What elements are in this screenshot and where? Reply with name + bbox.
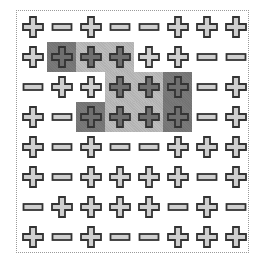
board-cell-r4-c5[interactable] — [163, 132, 192, 162]
board-cell-r4-c4[interactable] — [134, 132, 163, 162]
plus-icon — [80, 166, 102, 188]
board-cell-r6-c5[interactable] — [163, 192, 192, 222]
board-cell-r5-c7[interactable] — [221, 162, 250, 192]
plus-icon — [167, 16, 189, 38]
board-cell-r0-c3[interactable] — [105, 12, 134, 42]
board-cell-r3-c1[interactable] — [47, 102, 76, 132]
plus-icon — [225, 16, 247, 38]
board-cell-r5-c6[interactable] — [192, 162, 221, 192]
board-cell-r1-c7[interactable] — [221, 42, 250, 72]
board-cell-r5-c3[interactable] — [105, 162, 134, 192]
board-cell-r0-c1[interactable] — [47, 12, 76, 42]
board-cell-r2-c2[interactable] — [76, 72, 105, 102]
minus-icon — [167, 196, 189, 218]
board-cell-r0-c6[interactable] — [192, 12, 221, 42]
board-cell-r3-c0[interactable] — [18, 102, 47, 132]
board-cell-r7-c0[interactable] — [18, 222, 47, 252]
board-cell-r5-c2[interactable] — [76, 162, 105, 192]
board-cell-r4-c0[interactable] — [18, 132, 47, 162]
minus-icon — [109, 226, 131, 248]
minus-icon — [109, 136, 131, 158]
board-cell-r5-c0[interactable] — [18, 162, 47, 192]
board-cell-r2-c3[interactable] — [105, 72, 134, 102]
plus-icon — [225, 166, 247, 188]
minus-icon — [51, 16, 73, 38]
board-cell-r6-c2[interactable] — [76, 192, 105, 222]
board-cell-r5-c1[interactable] — [47, 162, 76, 192]
board-cell-r6-c4[interactable] — [134, 192, 163, 222]
board-cell-r1-c5[interactable] — [163, 42, 192, 72]
board-cell-r2-c7[interactable] — [221, 72, 250, 102]
plus-icon — [51, 196, 73, 218]
board-cell-r1-c4[interactable] — [134, 42, 163, 72]
plus-icon — [167, 106, 189, 128]
board-cell-r0-c2[interactable] — [76, 12, 105, 42]
minus-icon — [22, 196, 44, 218]
plus-icon — [138, 196, 160, 218]
board-cell-r7-c2[interactable] — [76, 222, 105, 252]
plus-icon — [80, 16, 102, 38]
board-cell-r3-c7[interactable] — [221, 102, 250, 132]
minus-icon — [196, 76, 218, 98]
minus-icon — [138, 136, 160, 158]
board-cell-r3-c3[interactable] — [105, 102, 134, 132]
board-cell-r2-c0[interactable] — [18, 72, 47, 102]
board-cell-r0-c7[interactable] — [221, 12, 250, 42]
minus-icon — [196, 46, 218, 68]
minus-icon — [51, 166, 73, 188]
board-cell-r4-c1[interactable] — [47, 132, 76, 162]
board-cell-r3-c6[interactable] — [192, 102, 221, 132]
board-cell-r6-c0[interactable] — [18, 192, 47, 222]
plus-icon — [138, 46, 160, 68]
board-cell-r2-c5[interactable] — [163, 72, 192, 102]
board-cell-r3-c5[interactable] — [163, 102, 192, 132]
board-cell-r7-c5[interactable] — [163, 222, 192, 252]
tile-grid — [18, 12, 250, 252]
board-cell-r2-c4[interactable] — [134, 72, 163, 102]
board-cell-r7-c3[interactable] — [105, 222, 134, 252]
board-cell-r1-c3[interactable] — [105, 42, 134, 72]
board-cell-r7-c4[interactable] — [134, 222, 163, 252]
plus-icon — [225, 136, 247, 158]
board-cell-r1-c6[interactable] — [192, 42, 221, 72]
plus-icon — [196, 16, 218, 38]
board-cell-r6-c6[interactable] — [192, 192, 221, 222]
board-cell-r5-c4[interactable] — [134, 162, 163, 192]
plus-icon — [225, 76, 247, 98]
board-cell-r4-c2[interactable] — [76, 132, 105, 162]
board-cell-r6-c7[interactable] — [221, 192, 250, 222]
minus-icon — [225, 196, 247, 218]
plus-icon — [22, 16, 44, 38]
board-cell-r1-c2[interactable] — [76, 42, 105, 72]
board-cell-r6-c1[interactable] — [47, 192, 76, 222]
plus-icon — [225, 226, 247, 248]
game-board — [16, 10, 249, 253]
board-cell-r3-c4[interactable] — [134, 102, 163, 132]
plus-icon — [196, 196, 218, 218]
plus-icon — [167, 226, 189, 248]
minus-icon — [196, 166, 218, 188]
board-cell-r0-c5[interactable] — [163, 12, 192, 42]
board-cell-r2-c6[interactable] — [192, 72, 221, 102]
plus-icon — [80, 76, 102, 98]
board-cell-r0-c0[interactable] — [18, 12, 47, 42]
minus-icon — [196, 106, 218, 128]
board-cell-r1-c0[interactable] — [18, 42, 47, 72]
board-cell-r1-c1[interactable] — [47, 42, 76, 72]
board-cell-r4-c6[interactable] — [192, 132, 221, 162]
plus-icon — [138, 76, 160, 98]
plus-icon — [22, 106, 44, 128]
board-cell-r4-c3[interactable] — [105, 132, 134, 162]
plus-icon — [109, 46, 131, 68]
board-cell-r7-c6[interactable] — [192, 222, 221, 252]
board-cell-r0-c4[interactable] — [134, 12, 163, 42]
board-cell-r4-c7[interactable] — [221, 132, 250, 162]
plus-icon — [109, 106, 131, 128]
board-cell-r2-c1[interactable] — [47, 72, 76, 102]
board-cell-r5-c5[interactable] — [163, 162, 192, 192]
board-cell-r3-c2[interactable] — [76, 102, 105, 132]
board-cell-r7-c7[interactable] — [221, 222, 250, 252]
board-cell-r7-c1[interactable] — [47, 222, 76, 252]
plus-icon — [22, 226, 44, 248]
board-cell-r6-c3[interactable] — [105, 192, 134, 222]
